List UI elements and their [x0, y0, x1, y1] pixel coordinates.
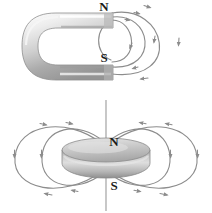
disc-magnet-panel: N S [14, 100, 197, 211]
field-line-3-arrowhead-bot [133, 67, 138, 69]
field-line-1-arrowhead [96, 36, 97, 41]
disc-left-outer-arrow-top [40, 124, 46, 125]
disc-right-outer-arrow-top [166, 124, 172, 125]
north-pole-face [104, 13, 113, 28]
disc-left-inner-arrow-top [66, 123, 72, 124]
horseshoe-north-label: N [99, 0, 109, 14]
horseshoe-south-label: S [100, 50, 107, 65]
disc-right-outer-arrow-bottom [160, 194, 167, 196]
disc-top-face-highlight [68, 142, 128, 154]
field-line-3 [112, 17, 145, 67]
field-line-3-arrowhead-top [134, 13, 139, 14]
magnetic-field-figure: N S [0, 0, 212, 213]
figure-canvas: N S [0, 0, 212, 213]
field-line-3-arrowhead-side [154, 36, 155, 42]
disc-right-inner-arrow-bottom [134, 190, 140, 191]
horseshoe-magnet-panel: N S [22, 0, 179, 80]
field-line-4-arrowhead-side [179, 38, 180, 45]
field-line-4-arrowhead-bot [141, 78, 148, 79]
field-line-1-arrow-seg [97, 38, 98, 42]
field-line-2-arrowhead-top [125, 19, 129, 20]
disc-right-inner-arrow-top [140, 123, 146, 124]
disc-north-label: N [109, 134, 119, 149]
disc-magnet-body [62, 138, 150, 178]
disc-left-outer-arrow-bottom [45, 194, 52, 196]
disc-south-label: S [110, 178, 117, 193]
south-pole-face [104, 65, 113, 80]
field-line-4-arrowhead-top [144, 6, 150, 8]
disc-left-inner-arrow-bottom [72, 190, 78, 191]
field-line-2 [112, 20, 132, 62]
